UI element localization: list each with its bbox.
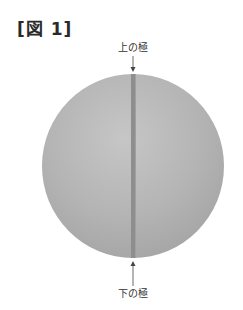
sphere-diagram bbox=[0, 0, 243, 310]
bottom-pole-arrow-icon bbox=[131, 261, 136, 286]
top-pole-arrow-icon bbox=[131, 56, 136, 72]
meridian-stripe bbox=[131, 74, 135, 258]
meridian-stripe-edge bbox=[135, 74, 136, 258]
